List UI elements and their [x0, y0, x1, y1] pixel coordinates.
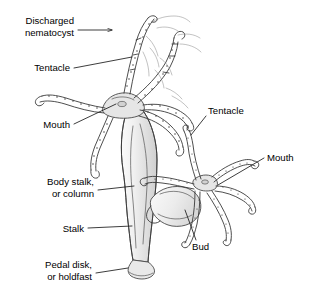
label-discharged-nematocyst-line2: nematocyst: [25, 27, 74, 38]
leader-lines: [74, 30, 264, 273]
label-tentacle-left: Tentacle: [34, 62, 70, 73]
label-body-stalk-line1: Body stalk,: [47, 176, 94, 187]
label-pedal-disk-line2: or holdfast: [47, 271, 92, 282]
label-mouth-left: Mouth: [43, 119, 70, 130]
parent-hypostome: [102, 93, 144, 118]
leader-pedal-disk: [96, 268, 128, 273]
bud-polyp: [140, 125, 259, 248]
parent-tentacle-4: [91, 116, 113, 178]
label-bud: Bud: [192, 241, 209, 252]
pedal-disk: [128, 260, 154, 279]
label-tentacle-right: Tentacle: [208, 105, 244, 116]
parent-tentacle-3: [35, 95, 105, 113]
hydra-diagram-canvas: Discharged nematocyst Tentacle Mouth Bod…: [0, 0, 310, 291]
parent-body-column: [121, 110, 157, 262]
label-body-stalk-line2: or column: [52, 188, 94, 199]
parent-tentacle-1: [124, 16, 157, 94]
bud-mouth-opening: [202, 180, 209, 184]
bud-tentacle-3: [215, 186, 256, 214]
parent-tentacle-2: [134, 31, 185, 103]
leader-tentacle-left: [74, 57, 132, 68]
label-mouth-right: Mouth: [267, 152, 294, 163]
label-pedal-disk-line1: Pedal disk,: [45, 259, 92, 270]
label-group: Discharged nematocyst Tentacle Mouth Bod…: [25, 15, 294, 282]
label-stalk: Stalk: [63, 223, 85, 234]
bud-tentacle-2: [212, 160, 259, 183]
label-discharged-nematocyst-line1: Discharged: [25, 15, 74, 26]
leader-stalk: [88, 226, 132, 228]
bud-tentacle-4: [207, 191, 231, 246]
parent-mouth-opening: [118, 101, 126, 106]
hydra-diagram-figure: Discharged nematocyst Tentacle Mouth Bod…: [0, 0, 310, 291]
leader-mouth-right: [218, 158, 264, 185]
